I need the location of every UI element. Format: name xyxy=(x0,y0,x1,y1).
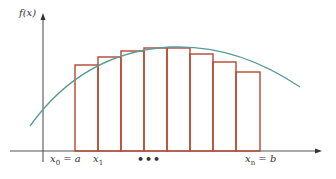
riemann-rectangle xyxy=(236,72,260,151)
riemann-rectangle xyxy=(190,54,213,151)
x-axis-arrow-icon xyxy=(315,149,322,154)
riemann-rectangle xyxy=(121,51,144,151)
x-label-x0-a: x0 = a xyxy=(50,153,81,167)
riemann-rectangle xyxy=(98,57,121,151)
riemann-rectangle xyxy=(144,48,167,151)
x-label-xn-b: xn = b xyxy=(245,153,276,167)
y-axis-arrow-icon xyxy=(41,13,46,20)
x-label-x1: x1 xyxy=(93,153,103,167)
riemann-sum-diagram: f(x) x0 = a x1 ••• xn = b xyxy=(0,0,336,179)
y-axis-label: f(x) xyxy=(19,7,36,18)
riemann-rectangle xyxy=(213,62,236,151)
ellipsis: ••• xyxy=(137,153,161,166)
riemann-rectangle xyxy=(167,48,190,151)
